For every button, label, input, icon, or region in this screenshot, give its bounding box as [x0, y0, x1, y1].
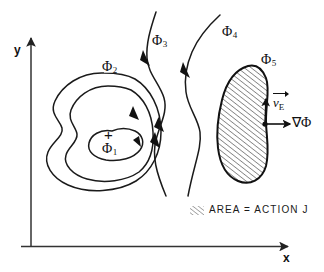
- y-axis-label: y: [14, 44, 21, 56]
- gradient-vector-label: ∇Φ: [292, 116, 311, 130]
- label-phi3: Φ3: [152, 34, 167, 49]
- label-phi5: Φ5: [261, 53, 276, 68]
- label-phi3-symbol: Φ: [152, 33, 162, 48]
- legend-swatch-group: [190, 206, 204, 215]
- label-phi1-symbol: Φ: [102, 141, 112, 156]
- phi3-arrowheads: [140, 50, 160, 148]
- label-phi2-symbol: Φ: [102, 59, 112, 74]
- arrowhead-middle: [129, 106, 139, 120]
- center-marker: +: [104, 127, 113, 142]
- vector-overarrow: [273, 93, 288, 94]
- velocity-vector-label: vE: [273, 96, 284, 112]
- hatched-blob: [217, 66, 268, 183]
- legend-text: AREA = ACTION J: [209, 205, 309, 215]
- velocity-vector-arrow: [265, 99, 266, 124]
- hatched-blob-group: [217, 66, 268, 183]
- label-phi4-subscript: 4: [232, 30, 237, 40]
- label-phi1: Φ1: [102, 142, 117, 157]
- label-phi2-subscript: 2: [112, 65, 117, 75]
- diagram-canvas: y x Φ2 + Φ1 Φ3 Φ4 Φ5 vE ∇Φ AREA = ACTION…: [0, 0, 324, 272]
- label-phi4: Φ4: [222, 25, 237, 40]
- velocity-subscript: E: [279, 102, 285, 112]
- arrowhead-inner: [133, 136, 141, 147]
- open-contour-phi4: [185, 15, 220, 196]
- label-phi2: Φ2: [102, 60, 117, 75]
- arrowhead-phi3-upper: [140, 50, 150, 66]
- label-phi5-symbol: Φ: [261, 52, 271, 67]
- open-contour-phi4-group: [185, 15, 220, 196]
- label-phi4-symbol: Φ: [222, 24, 232, 39]
- label-phi3-subscript: 3: [162, 39, 167, 49]
- hatched-swatch: [190, 206, 204, 215]
- x-axis-label: x: [283, 252, 290, 264]
- label-phi1-subscript: 1: [112, 147, 117, 157]
- label-phi5-subscript: 5: [271, 58, 276, 68]
